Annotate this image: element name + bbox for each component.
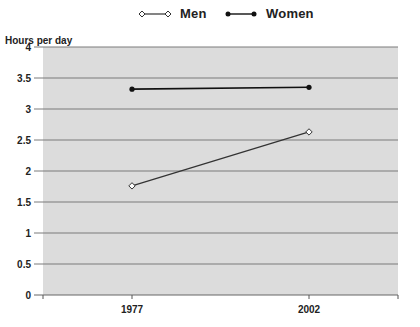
data-point-women [129, 87, 134, 92]
y-tick-label: 3 [25, 104, 31, 115]
y-tick-label: 1.5 [17, 197, 31, 208]
y-tick-label: 1 [25, 228, 31, 239]
y-tick-label: 4 [25, 42, 31, 53]
y-tick-label: 2 [25, 166, 31, 177]
y-tick-label: 2.5 [17, 135, 31, 146]
y-tick-label: 0.5 [17, 259, 31, 270]
x-tick-label: 1977 [121, 304, 144, 315]
line-chart: 00.511.522.533.5419772002 [0, 0, 420, 327]
plot-area: 00.511.522.533.5419772002 [17, 42, 398, 316]
y-tick-label: 0 [25, 290, 31, 301]
x-tick-label: 2002 [298, 304, 321, 315]
data-point-women [306, 85, 311, 90]
y-tick-label: 3.5 [17, 73, 31, 84]
